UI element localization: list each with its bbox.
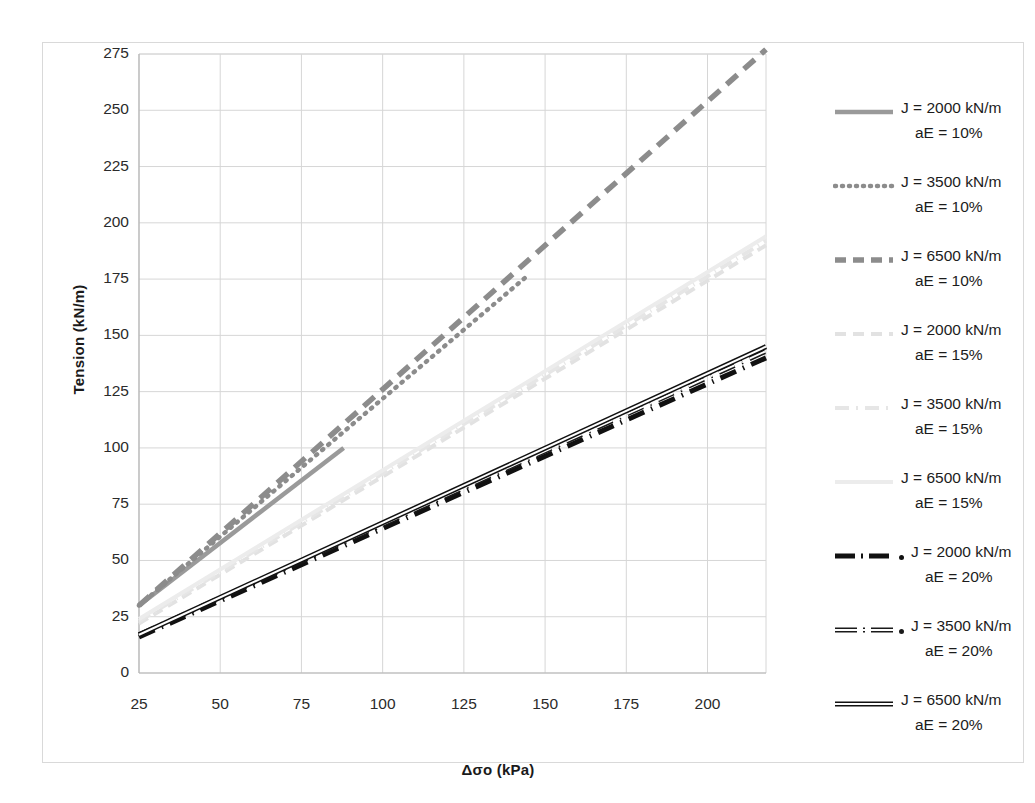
y-tick-label: 175	[83, 269, 129, 287]
y-tick-label: 200	[83, 213, 129, 231]
legend-label: J = 3500 kN/maE = 15%	[901, 391, 1001, 441]
x-tick-label: 75	[271, 695, 331, 713]
y-tick-label: 125	[83, 382, 129, 400]
legend-entry[interactable]: J = 6500 kN/maE = 20%	[833, 687, 1035, 761]
y-tick-label: 50	[83, 550, 129, 568]
legend-entry[interactable]: J = 6500 kN/maE = 10%	[833, 243, 1035, 317]
legend-label-line2: aE = 10%	[901, 268, 1001, 293]
y-tick-label: 100	[83, 438, 129, 456]
legend-label-line1: J = 2000 kN/m	[911, 543, 1011, 560]
legend-swatch-gray-dashed	[833, 253, 895, 267]
legend-swatch-faint-solid	[833, 475, 895, 489]
legend-label: J = 2000 kN/maE = 20%	[911, 539, 1011, 589]
legend-label: J = 6500 kN/maE = 20%	[901, 687, 1001, 737]
legend-line-icon	[833, 401, 895, 415]
y-tick-label: 0	[83, 663, 129, 681]
y-tick-label: 250	[83, 100, 129, 118]
x-tick-label: 25	[109, 695, 169, 713]
legend-swatch-faint-dashed	[833, 327, 895, 341]
series-line-4	[139, 245, 766, 623]
legend-label: J = 2000 kN/maE = 10%	[901, 95, 1001, 145]
legend-line-icon	[833, 549, 895, 563]
legend-entry[interactable]: J = 3500 kN/maE = 10%	[833, 169, 1035, 243]
legend-dot-icon	[899, 629, 904, 634]
legend-swatch-black-dashdot	[833, 549, 895, 563]
legend-label-line1: J = 6500 kN/m	[901, 247, 1001, 264]
series-line-5	[139, 241, 766, 621]
x-tick-label: 50	[190, 695, 250, 713]
legend-label-line1: J = 2000 kN/m	[901, 99, 1001, 116]
legend-line-icon	[833, 179, 895, 193]
legend-swatch-black-dashdot-double	[833, 623, 895, 637]
legend-entry[interactable]: J = 6500 kN/maE = 15%	[833, 465, 1035, 539]
series-line-3	[139, 49, 766, 605]
legend-entry[interactable]: J = 2000 kN/maE = 20%	[833, 539, 1035, 613]
y-tick-label: 275	[83, 44, 129, 62]
y-tick-label: 75	[83, 494, 129, 512]
x-tick-label: 200	[678, 695, 738, 713]
chart-legend: J = 2000 kN/maE = 10%J = 3500 kN/maE = 1…	[833, 95, 1035, 761]
x-tick-label: 125	[434, 695, 494, 713]
legend-label-line2: aE = 15%	[901, 342, 1001, 367]
legend-label-line1: J = 2000 kN/m	[901, 321, 1001, 338]
chart-frame: Tension (kN/m) Δσo (kPa) 275250225200175…	[42, 42, 1024, 763]
legend-label: J = 3500 kN/maE = 20%	[911, 613, 1011, 663]
legend-label: J = 2000 kN/maE = 15%	[901, 317, 1001, 367]
legend-label-line2: aE = 20%	[911, 564, 1011, 589]
legend-entry[interactable]: J = 3500 kN/maE = 20%	[833, 613, 1035, 687]
x-tick-label: 100	[353, 695, 413, 713]
legend-line-icon	[833, 105, 895, 119]
legend-swatch-black-double-solid	[833, 697, 895, 711]
y-tick-label: 25	[83, 607, 129, 625]
legend-swatch-gray-dotted	[833, 179, 895, 193]
x-axis-title: Δσo (kPa)	[373, 761, 623, 778]
x-tick-label: 175	[596, 695, 656, 713]
legend-entry[interactable]: J = 2000 kN/maE = 15%	[833, 317, 1035, 391]
legend-label-line1: J = 6500 kN/m	[901, 469, 1001, 486]
legend-label: J = 6500 kN/maE = 10%	[901, 243, 1001, 293]
legend-entry[interactable]: J = 3500 kN/maE = 15%	[833, 391, 1035, 465]
x-tick-label: 150	[515, 695, 575, 713]
legend-label-line1: J = 3500 kN/m	[901, 395, 1001, 412]
y-tick-label: 150	[83, 325, 129, 343]
legend-label-line2: aE = 15%	[901, 490, 1001, 515]
legend-label: J = 6500 kN/maE = 15%	[901, 465, 1001, 515]
legend-swatch-gray-solid	[833, 105, 895, 119]
series-line-7	[139, 358, 766, 637]
legend-label-line1: J = 3500 kN/m	[911, 617, 1011, 634]
legend-line-icon	[833, 475, 895, 489]
legend-label-line2: aE = 15%	[901, 416, 1001, 441]
legend-label-line2: aE = 10%	[901, 194, 1001, 219]
legend-label-line1: J = 6500 kN/m	[901, 691, 1001, 708]
y-tick-label: 225	[83, 157, 129, 175]
legend-entry[interactable]: J = 2000 kN/maE = 10%	[833, 95, 1035, 169]
legend-line-icon	[833, 623, 895, 637]
legend-swatch-faint-dashdot	[833, 401, 895, 415]
chart-root: Tension (kN/m) Δσo (kPa) 275250225200175…	[0, 0, 1035, 803]
legend-line-icon	[833, 697, 895, 711]
legend-line-icon	[833, 253, 895, 267]
legend-label-line1: J = 3500 kN/m	[901, 173, 1001, 190]
legend-dot-icon	[899, 555, 904, 560]
legend-label: J = 3500 kN/maE = 10%	[901, 169, 1001, 219]
series-line-1	[139, 448, 344, 606]
series-line-9-core	[139, 347, 766, 635]
legend-label-line2: aE = 20%	[901, 712, 1001, 737]
legend-line-icon	[833, 327, 895, 341]
legend-label-line2: aE = 20%	[911, 638, 1011, 663]
legend-label-line2: aE = 10%	[901, 120, 1001, 145]
series-line-6	[139, 236, 766, 619]
